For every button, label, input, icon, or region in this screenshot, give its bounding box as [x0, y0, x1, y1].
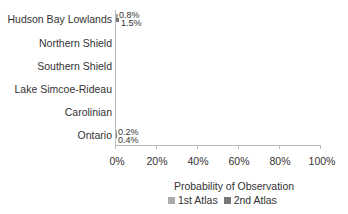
- category-label: Hudson Bay Lowlands: [8, 13, 112, 25]
- x-tick-label: 100%: [309, 155, 336, 167]
- value-label: 0.4%: [118, 136, 139, 144]
- legend-swatch-1st: [168, 197, 175, 204]
- x-tick-label: 60%: [228, 155, 249, 167]
- legend-label-1st: 1st Atlas: [178, 194, 218, 206]
- x-tick: [156, 145, 157, 149]
- legend-swatch-2nd: [224, 197, 231, 204]
- category-label: Northern Shield: [39, 37, 112, 49]
- category-label: Lake Simcoe-Rideau: [15, 83, 112, 95]
- x-tick: [115, 145, 116, 149]
- legend: 1st Atlas 2nd Atlas: [168, 194, 277, 206]
- x-axis-title-text: Probability of Observation: [174, 180, 294, 192]
- x-tick-label: 80%: [269, 155, 290, 167]
- x-tick: [238, 145, 239, 149]
- x-tick: [197, 145, 198, 149]
- x-tick-label: 40%: [187, 155, 208, 167]
- x-tick-label: 20%: [146, 155, 167, 167]
- category-label: Ontario: [78, 129, 112, 141]
- category-label: Southern Shield: [37, 60, 112, 72]
- x-axis-title: Probability of Observation: [0, 180, 348, 192]
- x-tick: [320, 145, 321, 149]
- x-tick: [279, 145, 280, 149]
- x-tick-label: 0%: [109, 155, 124, 167]
- legend-label-2nd: 2nd Atlas: [234, 194, 277, 206]
- bar-2nd-atlas: [116, 134, 117, 138]
- value-label: 1.5%: [121, 19, 142, 27]
- category-label: Carolinian: [65, 106, 112, 118]
- x-axis-line: [115, 145, 320, 146]
- y-axis-line: [115, 10, 116, 146]
